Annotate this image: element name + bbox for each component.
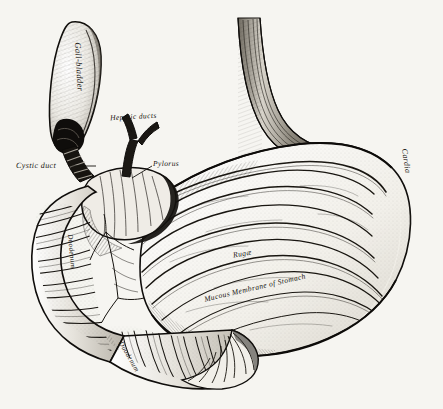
label-pylorus: Pylorus	[153, 159, 179, 168]
label-cystic-duct: Cystic duct	[16, 161, 56, 170]
engraving-artwork	[0, 0, 443, 409]
anatomical-figure: Gall-bladder Hepatic ducts Cystic duct P…	[0, 0, 443, 409]
